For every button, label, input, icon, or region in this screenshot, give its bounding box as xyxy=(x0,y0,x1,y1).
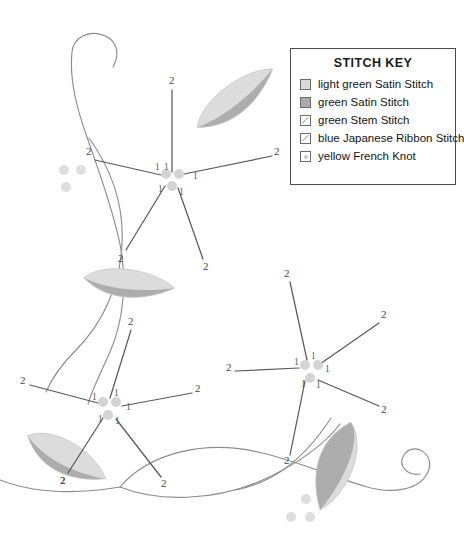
petal-up-outer-label: 2 xyxy=(169,74,175,86)
petal-upper-right-inner-label: 1 xyxy=(193,171,198,181)
petal-left-inner-label: 1 xyxy=(92,392,97,402)
petal-right-outer-label: 2 xyxy=(195,382,201,394)
petal-left-outer-label: 2 xyxy=(20,374,26,386)
french-knot-cluster-bottom xyxy=(286,494,315,522)
petal-left-inner-label: 1 xyxy=(155,162,160,172)
petal-left-inner-label: 1 xyxy=(294,357,299,367)
center-knot xyxy=(103,410,113,420)
petal-up-inner-label: 1 xyxy=(164,162,169,172)
legend-label-green-stem: green Stem Stitch xyxy=(318,114,409,126)
legend-label-blue-japanese-ribbon: blue Japanese Ribbon Stitch xyxy=(318,132,464,144)
petal-lower-left-inner-label: 1 xyxy=(158,184,163,194)
petal-right-inner-label: 1 xyxy=(126,402,131,412)
petal-left-outer-label: 2 xyxy=(86,145,92,157)
petal-lower-left-outer-label: 2 xyxy=(60,474,66,486)
vine-bottom-wave-2 xyxy=(120,424,340,497)
french-knot xyxy=(61,182,71,192)
stitch-key-legend: STITCH KEY light green Satin Stitch gree… xyxy=(290,48,456,185)
center-knot xyxy=(174,169,184,179)
petal-right-line xyxy=(318,380,379,406)
legend-row-blue-japanese-ribbon: blue Japanese Ribbon Stitch xyxy=(300,129,455,147)
petal-left-line xyxy=(30,385,98,403)
leaf-middle-left xyxy=(82,257,177,311)
petal-lower-right-line xyxy=(178,188,203,259)
petal-lower-left-line xyxy=(290,381,305,455)
french-knot xyxy=(59,165,69,175)
legend-row-green-satin: green Satin Stitch xyxy=(300,93,455,111)
petal-lower-right-inner-label: 1 xyxy=(179,187,184,197)
stitch-key-title: STITCH KEY xyxy=(291,56,455,70)
petal-right-outer-label: 2 xyxy=(381,403,387,415)
petal-left-outer-label: 2 xyxy=(226,361,232,373)
legend-list: light green Satin Stitch green Satin Sti… xyxy=(291,75,455,165)
petal-up-outer-label: 2 xyxy=(284,267,290,279)
green-satin-swatch-icon xyxy=(300,97,311,108)
petal-lower-left-outer-label: 2 xyxy=(284,454,290,466)
center-knot xyxy=(111,397,121,407)
petal-left-line xyxy=(235,368,299,371)
legend-row-yellow-french-knot: yellow French Knot xyxy=(300,147,455,165)
legend-label-yellow-french-knot: yellow French Knot xyxy=(318,150,416,162)
petal-upper-right-inner-label: 1 xyxy=(325,364,330,374)
petal-lower-right-outer-label: 2 xyxy=(161,477,167,489)
french-knot xyxy=(301,494,311,504)
legend-row-light-green-satin: light green Satin Stitch xyxy=(300,75,455,93)
petal-lower-right-outer-label: 2 xyxy=(203,260,209,272)
petal-upper-right-outer-label: 2 xyxy=(274,145,280,157)
vine-left-curl xyxy=(71,34,123,404)
yellow-french-knot-swatch-icon xyxy=(300,151,311,162)
blue-japanese-ribbon-swatch-icon xyxy=(300,133,311,144)
center-knot xyxy=(167,181,177,191)
petal-lower-right-inner-label: 1 xyxy=(115,416,120,426)
leaf-bottom-left xyxy=(21,418,111,499)
french-knot xyxy=(305,512,315,522)
french-knot xyxy=(76,165,86,175)
vine-left-loop xyxy=(46,138,122,392)
center-knot xyxy=(98,397,108,407)
legend-label-green-satin: green Satin Stitch xyxy=(318,96,409,108)
petal-lower-left-outer-label: 2 xyxy=(118,252,124,264)
french-knot-cluster-upper-left xyxy=(59,165,86,192)
petal-lower-right-line xyxy=(116,419,161,477)
petal-upper-right-outer-label: 2 xyxy=(381,308,387,320)
petal-right-inner-label: 1 xyxy=(316,380,321,390)
french-knot xyxy=(286,512,296,522)
leaf-top-right xyxy=(186,63,284,135)
petal-lower-left-inner-label: 1 xyxy=(98,414,103,424)
petal-up-inner-label: 1 xyxy=(114,388,119,398)
legend-label-light-green-satin: light green Satin Stitch xyxy=(318,78,433,90)
petal-lower-left-inner-label: 1 xyxy=(301,379,306,389)
center-knot xyxy=(300,360,310,370)
petal-up-outer-label: 2 xyxy=(128,315,134,327)
petal-left-line xyxy=(95,160,161,175)
center-knot xyxy=(313,360,323,370)
petal-up-line xyxy=(290,282,307,360)
vine-bottom-curl xyxy=(364,449,430,490)
petal-lower-left-line xyxy=(126,186,165,250)
petal-up-inner-label: 1 xyxy=(311,351,316,361)
petal-upper-right-line xyxy=(320,323,379,364)
center-knot xyxy=(305,373,315,383)
light-green-satin-swatch-icon xyxy=(300,79,311,90)
petal-right-line xyxy=(122,393,192,406)
legend-row-green-stem: green Stem Stitch xyxy=(300,111,455,129)
green-stem-swatch-icon xyxy=(300,115,311,126)
bottom-right-flower: 1 2 1 2 1 2 1 2 1 2 xyxy=(226,267,387,466)
